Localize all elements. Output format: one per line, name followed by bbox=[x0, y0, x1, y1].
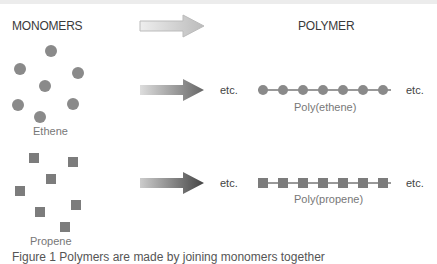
monomers-heading: MONOMERS bbox=[12, 19, 82, 33]
ethene-monomer bbox=[39, 80, 51, 92]
ethene-monomer bbox=[14, 63, 26, 75]
propene-arrow-icon bbox=[138, 171, 206, 195]
etc-right: etc. bbox=[406, 177, 424, 189]
propene-label: Propene bbox=[30, 235, 72, 247]
ethene-monomer bbox=[45, 45, 57, 57]
ethene-monomer bbox=[34, 111, 46, 123]
polypropene-chain bbox=[253, 177, 393, 189]
propene-monomer bbox=[15, 186, 25, 196]
propene-monomer bbox=[71, 200, 81, 210]
ethene-monomer bbox=[12, 99, 24, 111]
ethene-arrow-icon bbox=[138, 78, 206, 102]
header-arrow-icon bbox=[138, 14, 206, 38]
top-border bbox=[0, 0, 437, 4]
etc-left: etc. bbox=[220, 84, 238, 96]
etc-left: etc. bbox=[220, 177, 238, 189]
figure-caption: Figure 1 Polymers are made by joining mo… bbox=[12, 250, 325, 264]
propene-monomer bbox=[46, 174, 56, 184]
propene-monomer bbox=[68, 157, 78, 167]
polypropene-label: Poly(propene) bbox=[294, 193, 363, 205]
polyethene-label: Poly(ethene) bbox=[294, 101, 356, 113]
polymer-heading: POLYMER bbox=[298, 19, 354, 33]
ethene-monomer bbox=[67, 98, 79, 110]
polyethene-chain bbox=[253, 84, 393, 96]
etc-right: etc. bbox=[406, 84, 424, 96]
propene-monomer bbox=[60, 222, 70, 232]
ethene-monomer bbox=[72, 67, 84, 79]
ethene-label: Ethene bbox=[33, 125, 68, 137]
propene-monomer bbox=[29, 153, 39, 163]
propene-monomer bbox=[35, 207, 45, 217]
